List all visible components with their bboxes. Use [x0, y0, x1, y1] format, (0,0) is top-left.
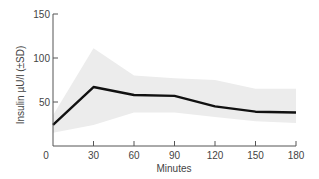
x-tick-label: 180 — [288, 150, 305, 161]
x-tick-label: 60 — [128, 150, 140, 161]
y-tick-label: 150 — [33, 9, 50, 20]
x-tick-label: 0 — [43, 150, 49, 161]
x-tick-label: 150 — [247, 150, 264, 161]
insulin-line-chart: 50100150 0306090120150180 Minutes Insuli… — [0, 0, 319, 179]
x-axis-label: Minutes — [156, 163, 191, 174]
y-tick-label: 100 — [33, 53, 50, 64]
x-tick-label: 90 — [169, 150, 181, 161]
x-tick-label: 120 — [207, 150, 224, 161]
x-axis: 0306090120150180 — [43, 141, 305, 161]
y-tick-label: 50 — [39, 97, 51, 108]
y-axis-label: Insulin µU/l (±SD) — [15, 46, 26, 125]
x-tick-label: 30 — [88, 150, 100, 161]
